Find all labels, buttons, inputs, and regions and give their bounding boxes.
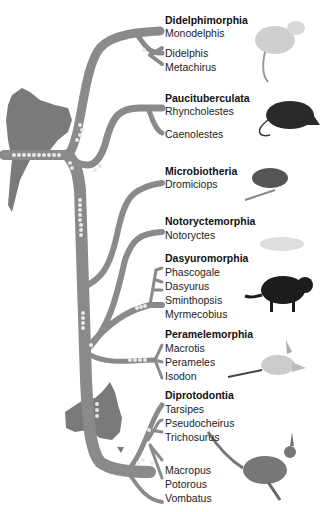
- phylogenetic-tree: [0, 0, 323, 512]
- genus-vombatus: Vombatus: [165, 492, 212, 504]
- genus-sminthopsis: Sminthopsis: [165, 294, 222, 306]
- order-peramelemorphia: Peramelemorphia: [165, 328, 253, 340]
- shrew-opossum-illustration: [260, 101, 320, 136]
- genus-caenolestes: Caenolestes: [165, 128, 223, 140]
- genus-rhyncholestes: Rhyncholestes: [165, 105, 234, 117]
- tasmania-map: [117, 447, 124, 453]
- opossum-illustration: [255, 21, 305, 82]
- genus-metachirus: Metachirus: [165, 61, 216, 73]
- genus-phascogale: Phascogale: [165, 266, 220, 278]
- genus-trichosurus: Trichosurus: [165, 431, 219, 443]
- genus-macropus: Macropus: [165, 464, 211, 476]
- bilby-illustration: [228, 340, 306, 377]
- genus-tarsipes: Tarsipes: [165, 403, 204, 415]
- genus-myrmecobius: Myrmecobius: [165, 308, 227, 320]
- genus-perameles: Perameles: [165, 356, 215, 368]
- genus-monodelphis: Monodelphis: [165, 27, 225, 39]
- order-microbiotheria: Microbiotheria: [165, 165, 237, 177]
- genus-didelphis: Didelphis: [165, 47, 208, 59]
- order-didelphimorphia: Didelphimorphia: [165, 14, 248, 26]
- order-dasyuromorphia: Dasyuromorphia: [165, 252, 248, 264]
- genus-isodon: Isodon: [165, 370, 197, 382]
- monito-del-monte-illustration: [245, 168, 288, 200]
- order-notoryctemorphia: Notoryctemorphia: [165, 215, 255, 227]
- genus-notoryctes: Notoryctes: [165, 229, 215, 241]
- tasmanian-devil-illustration: [245, 276, 313, 312]
- marsupial-mole-illustration: [260, 237, 304, 251]
- genus-pseudocheirus: Pseudocheirus: [165, 417, 234, 429]
- genus-macrotis: Macrotis: [165, 342, 205, 354]
- order-diprotodontia: Diprotodontia: [165, 389, 234, 401]
- order-paucituberculata: Paucituberculata: [165, 92, 250, 104]
- genus-dasyurus: Dasyurus: [165, 280, 209, 292]
- kangaroo-illustration: [208, 432, 296, 500]
- genus-dromiciops: Dromiciops: [165, 178, 218, 190]
- genus-potorous: Potorous: [165, 478, 207, 490]
